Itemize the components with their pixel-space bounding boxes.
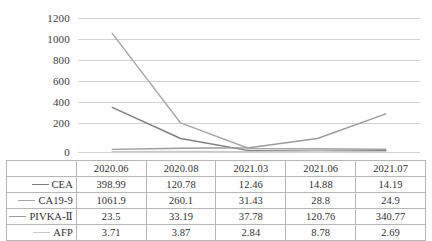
table-cell: 14.88 (286, 177, 356, 193)
table-cell: 28.8 (286, 193, 356, 209)
legend-line-swatch-icon (18, 200, 35, 201)
table-cell: 1061.9 (76, 193, 146, 209)
table-row: PIVKA-Ⅱ 23.5 33.19 37.78 120.76 340.77 (7, 209, 426, 225)
table-header-row: 2020.06 2020.08 2021.03 2021.06 2021.07 (7, 161, 426, 177)
column-header: 2021.07 (356, 161, 426, 177)
legend-label: AFP (53, 227, 73, 238)
column-header: 2021.03 (216, 161, 286, 177)
series-line (112, 114, 386, 149)
y-tick-label: 200 (53, 118, 70, 129)
table-cell: 12.46 (216, 177, 286, 193)
y-tick-label: 400 (53, 97, 70, 108)
table-cell: 24.9 (356, 193, 426, 209)
legend-item-cea[interactable]: CEA (7, 177, 77, 193)
table-row: AFP 3.71 3.87 2.84 8.78 2.69 (7, 225, 426, 241)
table-cell: 2.84 (216, 225, 286, 241)
data-table: 2020.06 2020.08 2021.03 2021.06 2021.07 … (6, 160, 426, 241)
y-tick-label: 1200 (47, 13, 70, 24)
data-table-wrapper: 2020.06 2020.08 2021.03 2021.06 2021.07 … (6, 160, 426, 241)
table-cell: 260.1 (146, 193, 216, 209)
table-cell: 2.69 (356, 225, 426, 241)
legend-item-afp[interactable]: AFP (7, 225, 77, 241)
table-cell: 3.71 (76, 225, 146, 241)
y-tick-label: 1000 (47, 34, 70, 45)
table-cell: 120.76 (286, 209, 356, 225)
y-axis: 1200 1000 800 600 400 200 0 (0, 0, 74, 166)
table-cell: 398.99 (76, 177, 146, 193)
y-tick-label: 0 (64, 147, 70, 158)
legend-label: CEA (52, 179, 73, 190)
legend-label: PIVKA-Ⅱ (29, 211, 72, 222)
chart-container: 1200 1000 800 600 400 200 0 2020.06 (0, 0, 432, 241)
table-cell: 31.43 (216, 193, 286, 209)
y-tick-label: 600 (53, 76, 70, 87)
table-cell: 23.5 (76, 209, 146, 225)
series-line (112, 151, 386, 152)
legend-item-ca19-9[interactable]: CA19-9 (7, 193, 77, 209)
legend-line-swatch-icon (32, 184, 49, 185)
column-header: 2020.08 (146, 161, 216, 177)
grid-and-series (78, 0, 420, 166)
legend-label: CA19-9 (38, 195, 72, 206)
series-lines (78, 0, 420, 166)
legend-item-pivka-ii[interactable]: PIVKA-Ⅱ (7, 209, 77, 225)
table-cell: 33.19 (146, 209, 216, 225)
table-cell: 14.19 (356, 177, 426, 193)
table-cell: 3.87 (146, 225, 216, 241)
column-header: 2021.06 (286, 161, 356, 177)
column-header: 2020.06 (76, 161, 146, 177)
legend-line-swatch-icon (33, 232, 50, 233)
y-tick-label: 800 (53, 55, 70, 66)
legend-header-blank (7, 161, 77, 177)
plot-area: 1200 1000 800 600 400 200 0 (0, 0, 432, 166)
table-cell: 37.78 (216, 209, 286, 225)
table-row: CEA 398.99 120.78 12.46 14.88 14.19 (7, 177, 426, 193)
series-line (112, 33, 386, 149)
table-cell: 8.78 (286, 225, 356, 241)
table-cell: 120.78 (146, 177, 216, 193)
legend-line-swatch-icon (9, 216, 26, 217)
table-cell: 340.77 (356, 209, 426, 225)
table-row: CA19-9 1061.9 260.1 31.43 28.8 24.9 (7, 193, 426, 209)
